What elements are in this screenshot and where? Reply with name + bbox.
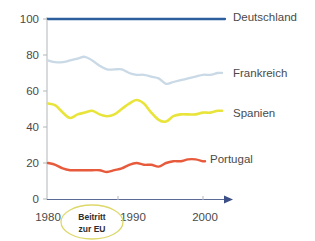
y-tick-label-0: 0 (33, 193, 39, 205)
x-tick-label-2000: 2000 (192, 211, 218, 223)
annotation-line-1: Beitritt (78, 212, 106, 222)
legend-label-spanien: Spanien (233, 107, 275, 119)
legend-label-portugal: Portugal (210, 153, 253, 165)
y-tick-label-40: 40 (26, 121, 39, 133)
y-tick-label-60: 60 (26, 85, 39, 97)
annotation-line-2: zur EU (79, 224, 106, 234)
line-chart: 100 80 60 40 20 0 1980 1990 2000 Deutsch… (0, 0, 315, 241)
legend-label-frankreich: Frankreich (233, 67, 287, 79)
x-axis-arrow-icon (224, 196, 233, 204)
series-line-spanien (48, 100, 222, 122)
x-tick-label-1990: 1990 (120, 211, 146, 223)
y-axis-ticks (43, 19, 47, 199)
chart-container: 100 80 60 40 20 0 1980 1990 2000 Deutsch… (0, 0, 315, 241)
x-tick-label-1980: 1980 (35, 211, 61, 223)
annotation-beitritt-zur-eu: Beitritt zur EU (61, 205, 123, 239)
y-tick-label-100: 100 (20, 13, 39, 25)
series-line-frankreich (48, 57, 222, 84)
series-group (48, 19, 225, 172)
y-tick-label-80: 80 (26, 49, 39, 61)
series-line-portugal (48, 159, 205, 172)
y-tick-label-20: 20 (26, 157, 39, 169)
legend-label-deutschland: Deutschland (233, 11, 297, 23)
